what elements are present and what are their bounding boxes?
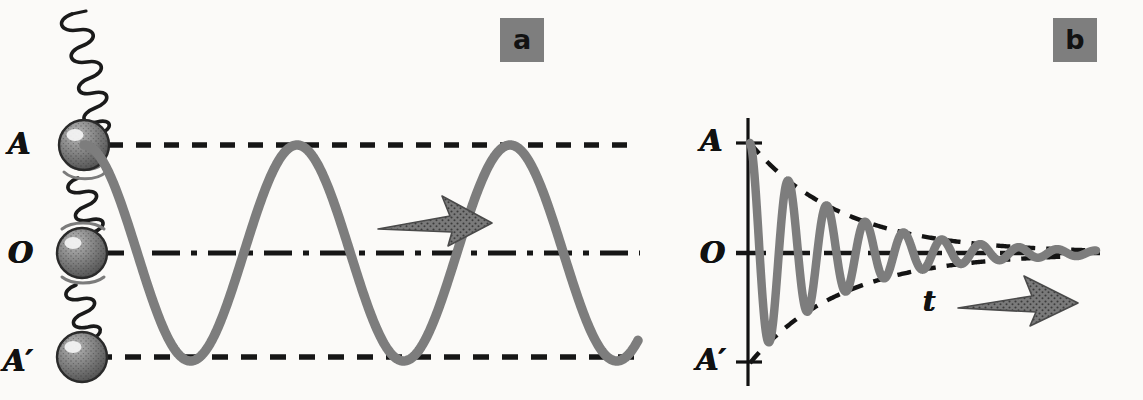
label-amplitude-top-a: A — [8, 130, 31, 159]
label-equilibrium-b: O — [700, 239, 725, 268]
panel-badge-b: b — [1053, 18, 1097, 62]
label-amplitude-top-b: A — [700, 127, 723, 156]
label-amplitude-bottom-b: A′ — [696, 346, 726, 375]
panel-badge-a: a — [500, 18, 544, 62]
figure-canvas — [0, 0, 1143, 400]
label-time-axis: t — [923, 288, 935, 315]
mass-ball-middle — [57, 228, 107, 278]
label-amplitude-bottom-a: A′ — [3, 347, 33, 376]
mass-ball-bottom — [57, 332, 107, 382]
figure-root: a b A O A′ A O A′ t — [0, 0, 1143, 400]
time-direction-arrow-b — [958, 276, 1078, 326]
panel-a — [57, 11, 640, 382]
label-equilibrium-a: O — [8, 239, 33, 268]
panel-b — [736, 118, 1100, 386]
decay-envelope-upper — [750, 143, 1096, 250]
